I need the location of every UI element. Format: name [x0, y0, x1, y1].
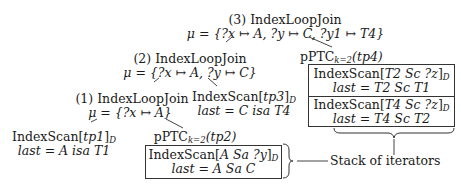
join1-label: (1) IndexLoopJoin: [62, 92, 202, 106]
join3-label: (3) IndexLoopJoin: [200, 13, 370, 27]
stack-of-iterators-label: Stack of iterators: [330, 154, 455, 168]
pptc-tp4-title-arg: (tp4): [352, 49, 383, 64]
scan-tp1-arg: tp1: [83, 129, 104, 144]
join2-label: (2) IndexLoopJoin: [115, 52, 265, 66]
pptc-tp4-iter-1-scan: IndexScan[T4 Sc ?z]D: [309, 98, 454, 112]
pptc-tp2-iter-0-last: last = A Sa C: [146, 162, 281, 176]
pptc-tp2-stack: IndexScan[A Sa ?y]D last = A Sa C: [145, 145, 282, 179]
pptc-tp2-title-sub: k=2: [188, 135, 206, 145]
scan-tp3-prefix: IndexScan[: [192, 89, 263, 104]
scan-tp1-last: last = A isa T1: [5, 144, 123, 158]
pptc-tp2-iter-0-scan: IndexScan[A Sa ?y]D: [146, 148, 281, 162]
pptc-tp4-iter-0-scan: IndexScan[T2 Sc ?z]D: [309, 67, 454, 81]
pptc-tp2-title-arg: (tp2): [206, 129, 237, 144]
pptc-tp4-iter-0-last: last = T2 Sc T1: [309, 81, 454, 95]
scan-tp3: IndexScan[tp3]D: [190, 90, 298, 104]
join3-mu: μ = {?x ↦ A, ?y ↦ C, ?y1 ↦ T4}: [178, 27, 393, 41]
scan-arg: A Sa ?y: [220, 147, 267, 162]
join1-mu: μ = {?x ↦ A}: [80, 106, 180, 120]
scan-prefix: IndexScan[: [313, 97, 384, 112]
pptc-tp4-title: pPTCk=2(tp4): [300, 50, 410, 64]
scan-tp1: IndexScan[tp1]D: [5, 130, 123, 144]
scan-tp1-prefix: IndexScan[: [12, 129, 83, 144]
scan-arg: T4 Sc ?z: [385, 97, 438, 112]
scan-tp3-arg: tp3: [263, 89, 284, 104]
pptc-tp4-title-prefix: pPTC: [300, 49, 334, 64]
scan-prefix: IndexScan[: [313, 66, 384, 81]
pptc-tp2-title: pPTCk=2(tp2): [140, 130, 250, 144]
pptc-tp2-title-prefix: pPTC: [154, 129, 188, 144]
scan-tp3-last: last = C isa T4: [190, 104, 298, 118]
pptc-tp4-iter-1-last: last = T4 Sc T2: [309, 112, 454, 126]
scan-prefix: IndexScan[: [149, 147, 220, 162]
join2-mu: μ = {?x ↦ A, ?y ↦ C}: [110, 66, 270, 80]
pptc-tp4-stack: IndexScan[T2 Sc ?z]D last = T2 Sc T1 Ind…: [308, 64, 455, 127]
scan-arg: T2 Sc ?z: [385, 66, 438, 81]
